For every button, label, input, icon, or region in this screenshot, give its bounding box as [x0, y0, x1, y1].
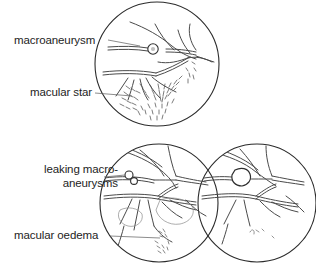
fundus-circle-bottom-right	[198, 144, 316, 262]
bottom-left-panel-content	[104, 145, 208, 253]
label-leaking-line1: leaking macro-	[44, 163, 118, 175]
bottom-right-panel-exudate-specks	[250, 229, 274, 238]
label-macular-star: macular star	[30, 86, 92, 100]
label-macroaneurysm: macroaneurysm	[14, 34, 95, 48]
fundus-circle-top	[95, 2, 219, 126]
bottom-left-panel-vessels	[104, 145, 208, 246]
bottom-left-panel-aneurysm-cluster	[125, 171, 137, 184]
figure-root: macroaneurysm macular star leaking macro…	[0, 0, 316, 275]
label-leaking-line2: aneurysms	[63, 177, 118, 189]
leader-macular-oedema	[110, 236, 160, 238]
top-panel-content	[103, 22, 214, 120]
bottom-left-panel-oedema-area	[118, 198, 193, 226]
top-panel-macroaneurysm	[148, 44, 158, 54]
label-leaking-macroaneurysms: leaking macro- aneurysms	[10, 163, 118, 190]
leader-macroaneurysm	[108, 40, 140, 46]
bottom-left-panel-exudate-specks	[155, 229, 169, 253]
bottom-right-panel-large-macroaneurysm	[232, 168, 251, 186]
label-macular-oedema: macular oedema	[14, 229, 98, 243]
